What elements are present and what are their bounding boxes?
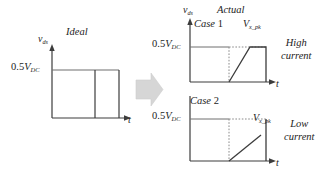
waveform-figure (0, 0, 324, 181)
ideal-level-label-subscript: DC (31, 66, 40, 73)
case1-label: Case 1 (194, 19, 223, 30)
case1-waveform (229, 47, 266, 82)
case2-peak-label-subscript: x_pk (259, 117, 271, 124)
case2-waveform (229, 135, 261, 161)
case2-annotation-line2: current (284, 130, 315, 143)
case1-peak-label: Vx_pk (243, 19, 261, 30)
case1-level-label-prefix: 0.5 (152, 38, 165, 49)
case2-peak-label: Vx_pk (253, 113, 271, 124)
case1-annotation-line2: current (281, 49, 312, 62)
ideal-y-axis-label: vds (38, 34, 48, 45)
transition-arrow (136, 73, 163, 106)
case1-x-axis-label: t (276, 79, 279, 89)
case2-label-word: Case (190, 95, 211, 106)
case2-label-number: 2 (214, 95, 219, 106)
case2-x-axis-label: t (276, 158, 279, 168)
case2-annotation-line1: Low (284, 117, 315, 130)
ideal-title: Ideal (66, 27, 88, 38)
actual-y-axis-label-subscript: ds (187, 9, 193, 16)
case1-level-label: 0.5VDC (152, 39, 181, 50)
ideal-x-axis-label: t (128, 115, 131, 125)
ideal-level-label: 0.5VDC (11, 62, 40, 73)
case1-label-word: Case (194, 18, 215, 29)
case2-level-label-prefix: 0.5 (152, 110, 165, 121)
actual-y-axis-label: vds (183, 5, 193, 16)
case2-level-label-subscript: DC (172, 115, 181, 122)
case1-peak-label-subscript: x_pk (249, 23, 261, 30)
ideal-y-axis-arrowhead-icon (49, 44, 54, 51)
case2-label: Case 2 (190, 96, 219, 107)
case1-annotation: Highcurrent (281, 36, 312, 62)
ideal-level-label-prefix: 0.5 (11, 61, 24, 72)
case2-x-axis-arrowhead-icon (269, 158, 276, 163)
case2-annotation: Lowcurrent (284, 117, 315, 143)
case1-x-axis-arrowhead-icon (269, 79, 276, 84)
ideal-y-axis-label-subscript: ds (42, 38, 48, 45)
case2-level-label: 0.5VDC (152, 111, 181, 122)
case1-annotation-line1: High (281, 36, 312, 49)
case1-level-label-subscript: DC (172, 43, 181, 50)
ideal-panel (49, 44, 131, 121)
case1-y-axis-arrowhead-icon (187, 18, 192, 25)
case1-label-number: 1 (218, 18, 223, 29)
right-block-arrow-icon (136, 73, 163, 106)
actual-title: Actual (217, 5, 244, 16)
